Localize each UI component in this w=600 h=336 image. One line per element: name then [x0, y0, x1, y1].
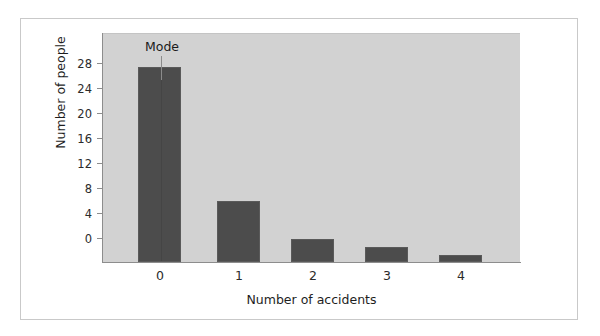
y-tick-label-16: 16 — [66, 132, 92, 146]
y-tick-label-0: 0 — [66, 232, 92, 246]
mode-annotation-label: Mode — [131, 39, 193, 54]
y-tick-label-8: 8 — [66, 182, 92, 196]
y-tick-mark-0 — [97, 238, 102, 239]
x-tick-label-3: 3 — [366, 268, 408, 283]
bar-category-3 — [365, 247, 408, 262]
y-tick-label-12: 12 — [66, 157, 92, 171]
y-tick-mark-28 — [97, 63, 102, 64]
y-tick-mark-12 — [97, 163, 102, 164]
y-tick-label-4: 4 — [66, 207, 92, 221]
bar-category-2 — [291, 239, 334, 262]
y-tick-mark-20 — [97, 113, 102, 114]
mode-leader-line-inner — [161, 80, 162, 261]
x-tick-label-1: 1 — [218, 268, 260, 283]
y-tick-label-28: 28 — [66, 57, 92, 71]
y-tick-label-24: 24 — [66, 82, 92, 96]
y-tick-label-20: 20 — [66, 107, 92, 121]
x-axis-title: Number of accidents — [103, 292, 520, 307]
x-tick-label-0: 0 — [139, 268, 181, 283]
y-axis-line — [102, 33, 103, 262]
x-tick-label-2: 2 — [292, 268, 334, 283]
mode-leader-line — [161, 56, 162, 80]
bar-category-1 — [217, 201, 260, 262]
x-axis-line — [102, 262, 521, 263]
bar-category-4 — [439, 255, 482, 262]
y-tick-mark-16 — [97, 138, 102, 139]
chart-figure: 28 24 20 16 12 8 4 0 Mode 0 1 2 3 4 Numb… — [0, 0, 600, 336]
x-tick-label-4: 4 — [440, 268, 482, 283]
y-tick-mark-4 — [97, 213, 102, 214]
bar-category-0 — [138, 67, 181, 262]
y-tick-mark-8 — [97, 188, 102, 189]
y-tick-mark-24 — [97, 88, 102, 89]
y-axis-title: Number of people — [53, 23, 68, 163]
